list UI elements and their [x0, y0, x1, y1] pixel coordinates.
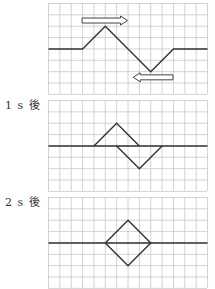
wave-grid	[48, 100, 209, 192]
arrow-left-icon	[133, 73, 173, 82]
panel-after-2s	[48, 197, 209, 289]
panel-initial	[48, 3, 209, 95]
wave-grid	[48, 3, 209, 95]
label-2s: 2 s 後	[5, 193, 41, 209]
arrow-right-icon	[82, 16, 127, 25]
wave-grid	[48, 197, 209, 289]
panel-after-1s	[48, 100, 209, 192]
label-1s: 1 s 後	[5, 96, 41, 112]
